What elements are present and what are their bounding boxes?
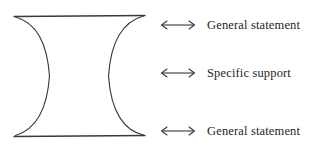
label-row-bottom: General statement: [158, 122, 300, 140]
label-row-top: General statement: [158, 16, 300, 34]
essay-structure-figure: General statement Specific support G: [0, 0, 319, 150]
double-arrow-icon: [158, 16, 198, 34]
label-text-bottom: General statement: [207, 122, 300, 140]
label-row-middle: Specific support: [158, 64, 291, 82]
label-column: General statement Specific support G: [0, 0, 319, 150]
double-arrow-icon: [158, 122, 198, 140]
label-text-top: General statement: [207, 16, 300, 34]
label-text-middle: Specific support: [207, 64, 291, 82]
double-arrow-icon: [158, 64, 198, 82]
